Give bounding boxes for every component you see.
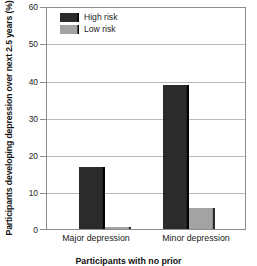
y-tick-label-0: 0	[16, 225, 38, 235]
y-tick-label-10: 10	[16, 188, 38, 198]
gridline-50	[47, 44, 245, 45]
bar-major-depression-high-risk	[79, 167, 105, 230]
gridline-20	[47, 156, 245, 157]
gridline-30	[47, 119, 245, 120]
y-tick-label-40: 40	[16, 77, 38, 87]
gridline-10	[47, 193, 245, 194]
y-tick-label-60: 60	[16, 2, 38, 12]
y-tick-label-20: 20	[16, 151, 38, 161]
legend-item-high-risk: High risk	[60, 12, 117, 22]
x-tick-label-major-depression: Major depression	[46, 233, 146, 243]
gridline-40	[47, 82, 245, 83]
y-axis-ticks: 60 50 40 30 20 10 0	[0, 0, 38, 265]
legend: High risk Low risk	[57, 9, 122, 37]
x-tick-label-minor-depression: Minor depression	[146, 233, 246, 243]
legend-item-low-risk: Low risk	[60, 24, 117, 34]
legend-label-high-risk: High risk	[84, 13, 117, 22]
y-tick-label-30: 30	[16, 114, 38, 124]
x-axis-title: Participants with no prior	[0, 256, 257, 266]
legend-label-low-risk: Low risk	[84, 25, 116, 34]
bar-minor-depression-low-risk	[189, 208, 215, 230]
x-axis-baseline	[46, 229, 246, 230]
legend-swatch-high-risk	[60, 13, 79, 22]
legend-swatch-low-risk	[60, 25, 79, 34]
bar-minor-depression-high-risk	[163, 85, 189, 230]
y-tick-label-50: 50	[16, 39, 38, 49]
plot-area	[46, 7, 246, 230]
